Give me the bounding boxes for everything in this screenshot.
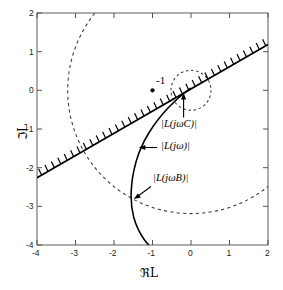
plot-canvas (0, 0, 283, 290)
label-magnitude-omega-b: |L(jωB)| (153, 172, 188, 183)
critical-point-marker (150, 88, 154, 92)
y-tick-label: -4 (26, 240, 34, 250)
x-tick-label: -2 (109, 248, 117, 258)
y-tick-label: -2 (26, 163, 34, 173)
label-magnitude-omega-c: |L(jωC)| (161, 118, 197, 129)
plot-frame (37, 13, 268, 245)
x-tick-label: 2 (265, 248, 270, 258)
y-tick-label: 1 (29, 47, 34, 57)
y-axis-ticks (37, 13, 268, 245)
y-axis-title: ℑL (16, 124, 30, 140)
nyquist-locus (131, 88, 190, 246)
hatched-boundary-line (37, 44, 268, 177)
x-axis-ticks (37, 13, 268, 245)
dashed-circle-omega-c (171, 70, 211, 110)
nyquist-figure: -4 -3 -2 -1 0 1 2 2 1 0 -1 -2 -3 -4 ℑL ℜ… (0, 0, 283, 290)
hatch-ticks (39, 39, 266, 175)
arrow-omega-b (134, 187, 151, 200)
arrow-omega-c (181, 93, 186, 118)
x-tick-label: -1 (148, 248, 156, 258)
x-tick-label: 1 (227, 248, 232, 258)
x-axis-title: ℜL (140, 266, 158, 280)
x-tick-label: -3 (71, 248, 79, 258)
y-tick-label: 2 (29, 8, 34, 18)
y-tick-label: -3 (26, 201, 34, 211)
label-magnitude-omega: |L(jω)| (161, 140, 190, 151)
critical-point-label: -1 (156, 74, 165, 86)
x-tick-label: 0 (188, 248, 193, 258)
y-tick-label: 0 (29, 85, 34, 95)
